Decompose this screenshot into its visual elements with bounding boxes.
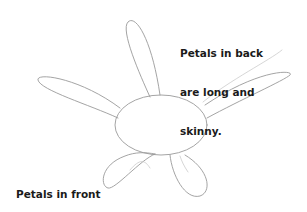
sketch-canvas: Petals in back are long and skinny. Peta… (0, 0, 307, 212)
note-line: skinny. (180, 125, 263, 138)
front-left-petal-crease (130, 162, 150, 171)
note-line: Petals in front (16, 188, 101, 201)
back-petals-note: Petals in back are long and skinny. (180, 21, 263, 164)
front-petals-note: Petals in front are short and wide. (16, 162, 101, 212)
front-left-petal (103, 153, 155, 188)
note-line: are long and (180, 86, 263, 99)
back-left-petal (38, 77, 120, 118)
back-top-petal (126, 21, 160, 97)
note-line: Petals in back (180, 47, 263, 60)
